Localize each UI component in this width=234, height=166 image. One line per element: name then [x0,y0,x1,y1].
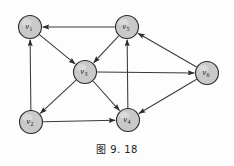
graph-edge-v6-to-v4 [139,79,197,113]
graph-node-v6[interactable]: v6 [196,62,219,85]
edge-layer [30,27,196,122]
node-layer: v1v5v3v6v2v4 [19,16,219,134]
graph-edge-v5-to-v3 [94,36,119,63]
figure-container: v1v5v3v6v2v4 图 9. 18 [0,0,234,166]
node-subscript-v1: 1 [29,26,32,32]
graph-edge-v3-to-v4 [93,81,119,111]
figure-caption: 图 9. 18 [0,141,234,156]
graph-edge-v2-to-v1 [30,40,31,110]
graph-edge-v1-to-v3 [39,35,75,64]
graph-node-v4[interactable]: v4 [117,109,140,132]
graph-edge-v2-to-v4 [43,120,115,121]
node-subscript-v5: 5 [126,26,129,32]
graph-edge-v4-to-v5 [127,40,128,108]
graph-node-v3[interactable]: v3 [74,61,97,84]
node-subscript-v3: 3 [84,71,87,77]
graph-node-v5[interactable]: v5 [116,16,139,39]
node-subscript-v2: 2 [30,121,33,127]
node-subscript-v4: 4 [127,119,130,125]
graph-node-v1[interactable]: v1 [19,16,42,39]
node-subscript-v6: 6 [206,72,209,78]
graph-edge-v3-to-v6 [97,72,194,73]
graph-node-v2[interactable]: v2 [20,111,43,134]
graph-edge-v3-to-v2 [40,80,76,113]
graph-edge-v6-to-v5 [138,33,197,67]
